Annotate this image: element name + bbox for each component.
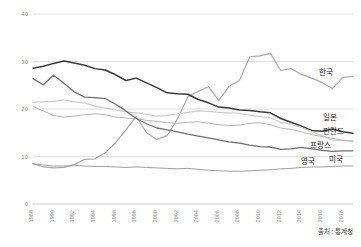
y-tick-label: 0: [25, 201, 29, 207]
series-label-미국: 미국: [329, 155, 343, 164]
series-line-korea: [33, 53, 353, 167]
series-label-프랑스: 프랑스: [310, 141, 331, 150]
y-tick-label: 20: [21, 106, 28, 112]
line-chart-container: 010203040 198819901992199419961998200020…: [0, 0, 361, 247]
x-tick-label: 1992: [69, 210, 75, 222]
x-tick-label: 1994: [90, 210, 96, 222]
series-label-일본: 일본: [323, 113, 337, 122]
x-tick-label: 1988: [28, 210, 34, 222]
x-tick-label: 2006: [214, 210, 220, 222]
chart-plot-area: 010203040 198819901992199419961998200020…: [0, 0, 361, 247]
x-tick-label: 2010: [255, 210, 261, 222]
x-axis-ticks-group: 1988199019921994199619982000200220042006…: [28, 210, 344, 222]
x-tick-label: 2002: [173, 210, 179, 222]
x-tick-label: 2014: [296, 210, 302, 222]
x-tick-label: 2018: [338, 210, 344, 222]
y-axis-ticks-group: 010203040: [21, 11, 28, 207]
x-tick-label: 2016: [317, 210, 323, 222]
series-line-usa: [33, 75, 353, 151]
series-lines-group: [33, 53, 353, 171]
y-tick-label: 30: [21, 59, 28, 65]
gridlines-group: [33, 14, 353, 204]
y-tick-label: 40: [21, 11, 28, 17]
series-label-영국: 영국: [301, 156, 315, 166]
x-tick-label: 1998: [131, 210, 137, 222]
y-tick-label: 10: [21, 154, 28, 160]
x-tick-label: 1996: [111, 210, 117, 222]
source-note: 출처 : 통계청: [318, 227, 354, 236]
x-tick-label: 1990: [49, 210, 55, 222]
series-label-한국: 한국: [319, 68, 333, 77]
x-tick-label: 2008: [234, 210, 240, 222]
series-label-핀란드: 핀란드: [323, 126, 344, 136]
x-tick-label: 2000: [152, 210, 158, 222]
x-tick-label: 2012: [276, 210, 282, 222]
x-tick-label: 2004: [193, 210, 199, 222]
